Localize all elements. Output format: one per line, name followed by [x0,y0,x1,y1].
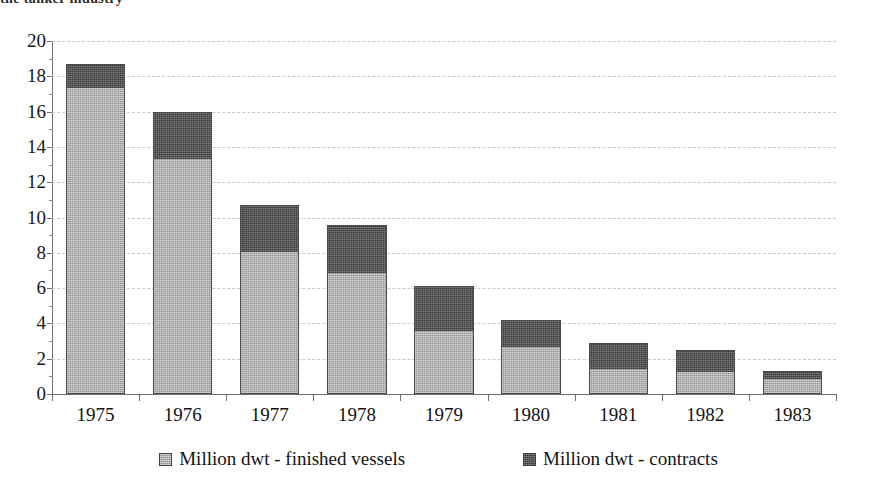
bar-segment-contracts [501,320,560,347]
bar-segment-finished-vessels [763,378,822,394]
bar-stack [763,371,822,394]
legend-entry[interactable]: Million dwt - contracts [523,449,718,469]
bar-segment-finished-vessels [676,371,735,394]
bar-segment-finished-vessels [66,87,125,394]
bar-stack [501,320,560,394]
chart-legend: Million dwt - finished vesselsMillion dw… [0,444,877,474]
bar-segment-finished-vessels [414,330,473,394]
legend-entry[interactable]: Million dwt - finished vessels [159,449,405,469]
x-tick-mark [139,394,140,401]
bar-segment-contracts [676,350,735,372]
x-tick-label: 1980 [488,404,575,426]
bar-stack [240,205,299,394]
x-tick-mark [313,394,314,401]
x-tick-label: 1978 [313,404,400,426]
plot-area [52,41,836,394]
legend-label: Million dwt - finished vessels [179,449,405,469]
x-tick-mark [836,394,837,401]
bar-segment-contracts [414,286,473,331]
x-tick-mark [662,394,663,401]
bar-segment-finished-vessels [327,272,386,394]
bar-segment-finished-vessels [240,251,299,394]
y-axis-ticks [0,41,56,394]
x-tick-mark [52,394,53,401]
bar-chart: the tanker industry 02468101214161820 19… [0,0,877,490]
bar-segment-finished-vessels [589,368,648,394]
x-tick-label: 1981 [575,404,662,426]
x-tick-mark [749,394,750,401]
clipped-title-text: the tanker industry [0,0,300,7]
bar-segment-contracts [66,64,125,88]
bar-stack [153,112,212,394]
bar-segment-contracts [763,371,822,379]
legend-swatch-icon [523,453,536,466]
bar-segment-contracts [240,205,299,252]
bar-stack [414,286,473,394]
x-tick-label: 1975 [52,404,139,426]
bar-stack [66,64,125,394]
legend-swatch-icon [159,453,172,466]
bar-segment-contracts [153,112,212,159]
x-tick-label: 1982 [662,404,749,426]
x-tick-label: 1979 [400,404,487,426]
gridline [52,41,836,42]
x-tick-mark [226,394,227,401]
bar-segment-contracts [327,225,386,274]
bar-stack [589,343,648,394]
bar-segment-finished-vessels [501,346,560,394]
legend-label: Million dwt - contracts [543,449,718,469]
x-tick-mark [488,394,489,401]
bar-stack [676,350,735,394]
bar-stack [327,225,386,394]
clipped-title: the tanker industry [0,0,300,7]
x-tick-mark [400,394,401,401]
x-tick-label: 1977 [226,404,313,426]
x-tick-label: 1983 [749,404,836,426]
bar-segment-finished-vessels [153,158,212,395]
x-axis-line [52,394,836,395]
x-tick-label: 1976 [139,404,226,426]
bar-segment-contracts [589,343,648,369]
x-tick-mark [575,394,576,401]
gridline [52,76,836,77]
